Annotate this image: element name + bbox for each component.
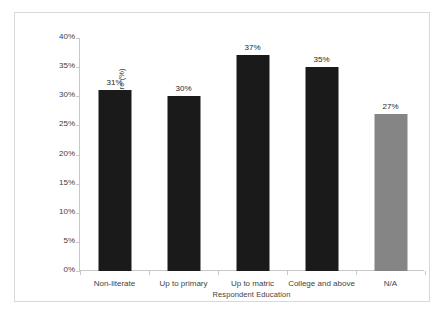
bar-slot: 35% bbox=[287, 38, 356, 271]
y-tick-label: 5% bbox=[63, 236, 75, 245]
bar-slot: 31% bbox=[80, 38, 149, 271]
x-tick-label: N/A bbox=[346, 279, 436, 288]
y-tick-label: 25% bbox=[59, 119, 75, 128]
bar-value-label: 27% bbox=[382, 102, 398, 111]
bar[interactable] bbox=[98, 90, 131, 271]
bar-value-label: 31% bbox=[106, 78, 122, 87]
y-tick-label: 30% bbox=[59, 90, 75, 99]
bar[interactable] bbox=[305, 67, 338, 271]
bar-value-label: 37% bbox=[244, 43, 260, 52]
y-tick-label: 10% bbox=[59, 207, 75, 216]
x-tick-mark bbox=[218, 271, 219, 275]
bar-slot: 30% bbox=[149, 38, 218, 271]
bar-series: 31%30%37%35%27% bbox=[80, 38, 425, 271]
x-tick-mark bbox=[287, 271, 288, 275]
bar-value-label: 30% bbox=[175, 84, 191, 93]
y-tick-label: 40% bbox=[59, 32, 75, 41]
bar-value-label: 35% bbox=[313, 55, 329, 64]
y-tick-label: 35% bbox=[59, 61, 75, 70]
chart-figure: Vote Share (%) 0%5%10%15%20%25%30%35%40%… bbox=[0, 0, 448, 322]
chart-frame: Vote Share (%) 0%5%10%15%20%25%30%35%40%… bbox=[14, 12, 430, 302]
y-tick-label: 20% bbox=[59, 149, 75, 158]
y-tick-label: 0% bbox=[63, 265, 75, 274]
x-tick-mark bbox=[356, 271, 357, 275]
x-tick-mark bbox=[149, 271, 150, 275]
bar[interactable] bbox=[236, 55, 269, 271]
x-tick-mark bbox=[425, 271, 426, 275]
x-axis-title: Respondent Education bbox=[79, 290, 424, 299]
bar[interactable] bbox=[167, 96, 200, 271]
bar[interactable] bbox=[374, 114, 407, 271]
plot-area: Vote Share (%) 0%5%10%15%20%25%30%35%40%… bbox=[79, 38, 424, 271]
bar-slot: 27% bbox=[356, 38, 425, 271]
y-tick-label: 15% bbox=[59, 178, 75, 187]
bar-slot: 37% bbox=[218, 38, 287, 271]
x-tick-mark bbox=[80, 271, 81, 275]
